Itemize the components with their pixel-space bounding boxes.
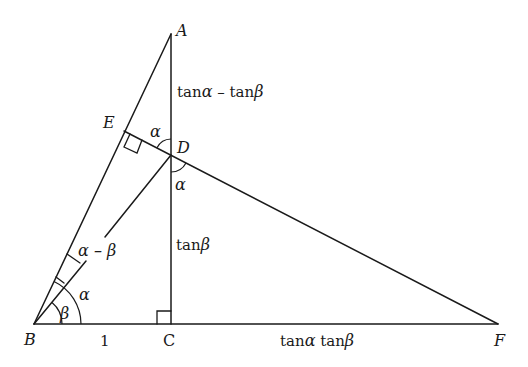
- point-label-C: C: [163, 331, 175, 350]
- angle-mark-alpha-beta-inner: [56, 277, 64, 283]
- angle-label-ADE: α: [150, 122, 161, 141]
- segment-EF: [124, 131, 498, 324]
- right-angle-mark-E: [124, 134, 142, 153]
- label-BC: 1: [100, 332, 110, 350]
- point-label-D: D: [176, 138, 190, 157]
- angle-label-CBA: α: [79, 285, 90, 304]
- angle-label-CDF: α: [175, 175, 186, 194]
- label-AD: tanα – tanβ: [177, 82, 263, 101]
- diagram-canvas: A B C D E F tanα – tanβ tanβ 1 tanα tanβ…: [0, 0, 528, 367]
- angle-arc-CDF: [171, 163, 186, 172]
- point-label-F: F: [493, 331, 506, 350]
- right-angle-mark-C: [157, 311, 171, 324]
- angle-label-CBD: β: [59, 304, 69, 323]
- segment-D-toward-B: [105, 155, 171, 237]
- segment-BA: [34, 34, 171, 324]
- label-DC: tanβ: [176, 235, 210, 254]
- point-label-E: E: [102, 113, 115, 132]
- angle-label-ABD: α – β: [78, 241, 116, 260]
- geometry-diagram: A B C D E F tanα – tanβ tanβ 1 tanα tanβ…: [0, 0, 528, 367]
- point-label-B: B: [23, 330, 36, 349]
- label-CF: tanα tanβ: [280, 331, 354, 350]
- point-label-A: A: [174, 21, 188, 40]
